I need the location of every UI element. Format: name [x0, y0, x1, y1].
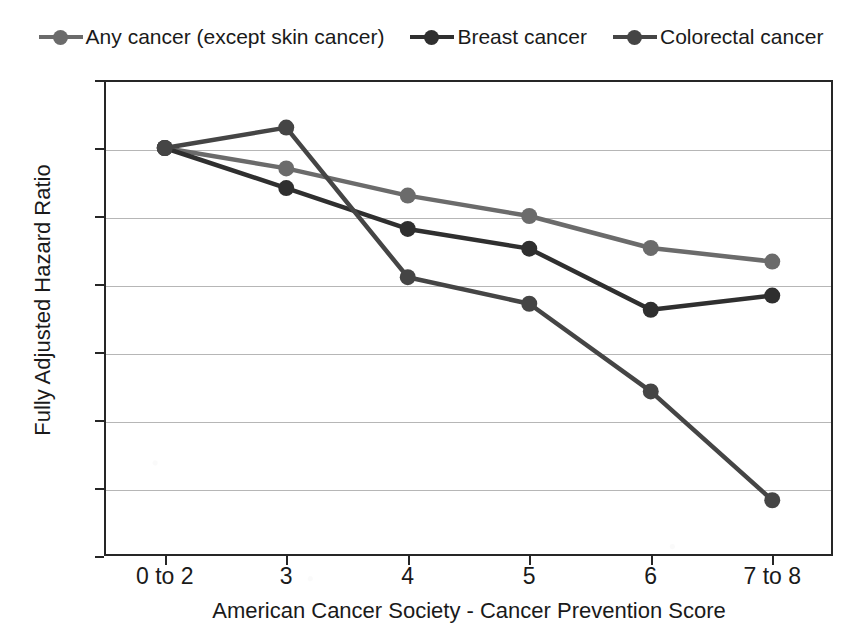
legend-item-label: Breast cancer	[456, 26, 587, 47]
chart-figure: Any cancer (except skin cancer)Breast ca…	[0, 0, 862, 643]
y-axis-title: Fully Adjusted Hazard Ratio	[26, 50, 60, 550]
y-axis-tick-mark	[95, 216, 104, 218]
legend-item-label: Colorectal cancer	[659, 26, 823, 47]
y-axis-tick-mark	[95, 148, 104, 150]
gridline	[106, 422, 831, 423]
legend-item-label: Any cancer (except skin cancer)	[85, 26, 385, 47]
legend-item-3[interactable]: Colorectal cancer	[613, 26, 823, 47]
y-axis-tick-mark	[95, 488, 104, 490]
gridline	[106, 354, 831, 355]
x-axis-tick-label: 7 to 8	[697, 563, 847, 589]
chart-legend: Any cancer (except skin cancer)Breast ca…	[0, 26, 862, 47]
legend-item-2[interactable]: Breast cancer	[410, 26, 587, 47]
plot-area	[104, 80, 833, 556]
legend-item-1[interactable]: Any cancer (except skin cancer)	[39, 26, 385, 47]
legend-marker-icon	[410, 29, 454, 45]
gridline	[106, 150, 831, 151]
gridline	[106, 218, 831, 219]
gridline	[106, 286, 831, 287]
y-axis-tick-mark	[95, 284, 104, 286]
legend-marker-icon	[613, 29, 657, 45]
y-axis-tick-mark	[95, 420, 104, 422]
y-axis-tick-mark	[95, 352, 104, 354]
gridline	[106, 490, 831, 491]
y-axis-tick-mark	[95, 556, 104, 558]
legend-marker-icon	[39, 29, 83, 45]
y-axis-tick-mark	[95, 80, 104, 82]
x-axis-title: American Cancer Society - Cancer Prevent…	[104, 598, 834, 624]
